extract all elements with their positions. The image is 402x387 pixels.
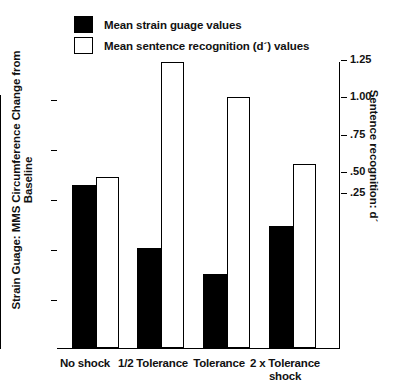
left-axis-title: Strain Guage: MMS Circumference Change f… (10, 40, 34, 320)
bar-open-tolerance (227, 97, 250, 348)
bar-solid-tolerance (203, 274, 227, 348)
tick-label: .25 (350, 186, 390, 198)
category-axis-labels: No shock1/2 ToleranceTolerance2 x Tolera… (57, 353, 340, 387)
tick-mark (341, 172, 347, 173)
filled-square-icon (74, 16, 93, 33)
category-label-2-x-tolerance-shock: 2 x Tolerance shock (242, 357, 328, 383)
plot-area (57, 95, 332, 348)
bar-solid-half-tolerance (137, 248, 161, 348)
bar-open-2x-tolerance (293, 164, 316, 348)
tick-mark (341, 60, 347, 61)
tick-label: .50 (350, 165, 390, 177)
bar-solid-2x-tolerance (269, 226, 293, 348)
legend-label-sentence-recognition: Mean sentence recognition (d´) values (104, 40, 309, 52)
bar-open-no-shock (96, 177, 119, 348)
tick-label: .75 (350, 128, 390, 140)
tick-label: 1.25 (350, 53, 390, 65)
tick-mark (341, 135, 347, 136)
right-axis-title: Sentence recognition: d´ (368, 41, 380, 271)
chart-legend: Mean strain guage values Mean sentence r… (74, 14, 334, 56)
tick-mark (341, 97, 347, 98)
bar-solid-no-shock (72, 185, 96, 348)
legend-label-strain-guage: Mean strain guage values (104, 19, 242, 31)
legend-item-strain-guage: Mean strain guage values (74, 14, 334, 35)
left-axis-spine (0, 95, 1, 349)
bar-open-half-tolerance (161, 62, 184, 348)
legend-item-sentence-recognition: Mean sentence recognition (d´) values (74, 35, 334, 56)
tick-mark (341, 193, 347, 194)
tick-label: 1.00 (350, 90, 390, 102)
hollow-square-icon (74, 37, 93, 54)
right-axis-spine (339, 62, 340, 349)
bar-chart: Mean strain guage values Mean sentence r… (0, 0, 402, 387)
